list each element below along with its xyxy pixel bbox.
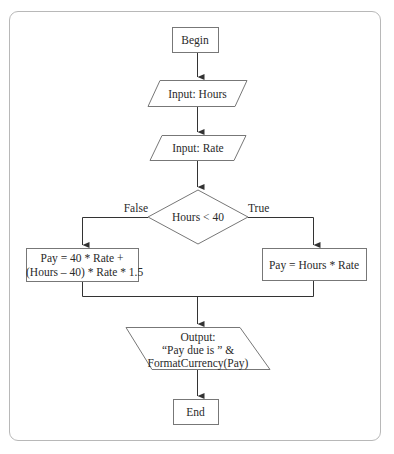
output-line2: “Pay due is ” &	[138, 343, 258, 357]
input-hours-label: Input: Hours	[148, 87, 247, 101]
decision-label: Hours < 40	[148, 210, 248, 224]
end-label: End	[173, 405, 218, 419]
true-branch-label: True	[248, 201, 278, 215]
output-line3: FormatCurrency(Pay)	[138, 356, 258, 370]
output-line1: Output:	[138, 330, 258, 344]
true-process-label: Pay = Hours * Rate	[262, 258, 366, 272]
false-process-line2: (Hours – 40) * Rate * 1.5	[26, 265, 138, 279]
input-rate-label: Input: Rate	[150, 141, 246, 155]
flowchart-lines	[0, 0, 394, 454]
false-process-line1: Pay = 40 * Rate +	[26, 251, 138, 265]
begin-label: Begin	[172, 33, 218, 47]
false-branch-label: False	[118, 201, 148, 215]
